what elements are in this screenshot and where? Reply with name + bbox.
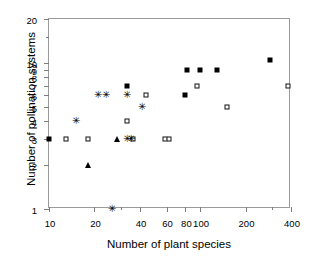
x-tick-label: 400	[284, 218, 300, 229]
x-tick: 400	[291, 207, 292, 212]
x-tick	[272, 207, 273, 210]
x-tick	[121, 207, 122, 210]
data-point-open-square	[125, 119, 130, 124]
x-tick-label: 10	[45, 218, 56, 229]
data-point-filled-square	[198, 67, 203, 72]
y-tick-label: 3	[32, 135, 37, 146]
x-tick: 100	[200, 207, 201, 212]
data-point-asterisk: ✳	[127, 136, 135, 142]
plot-area: 1234567891020 1020406080100200400 ✳✳✳✳✳✳…	[48, 18, 290, 208]
data-point-asterisk: ✳	[123, 92, 131, 98]
y-tick: 2	[44, 165, 49, 166]
y-tick: 10	[44, 63, 49, 64]
x-tick: 80	[185, 207, 186, 212]
y-tick-label: 2	[32, 161, 37, 172]
y-tick-label: 20	[26, 15, 37, 26]
y-tick-label: 5	[32, 102, 37, 113]
data-point-filled-square	[47, 137, 52, 142]
x-tick: 10	[49, 207, 50, 212]
y-tick: 9	[44, 70, 49, 71]
x-tick-label: 60	[162, 218, 173, 229]
data-point-filled-square	[185, 67, 190, 72]
y-tick	[46, 37, 49, 38]
data-point-asterisk: ✳	[72, 118, 80, 124]
x-tick: 200	[246, 207, 247, 212]
x-tick: 60	[167, 207, 168, 212]
data-point-asterisk: ✳	[94, 92, 102, 98]
x-tick-label: 100	[193, 218, 209, 229]
x-tick-label: 200	[239, 218, 255, 229]
data-point-open-square	[194, 83, 199, 88]
data-point-filled-square	[215, 67, 220, 72]
y-tick: 6	[44, 95, 49, 96]
data-point-filled-square	[267, 57, 272, 62]
x-tick-label: 40	[136, 218, 147, 229]
y-tick: 5	[44, 107, 49, 108]
x-tick: 40	[140, 207, 141, 212]
y-tick-label: 4	[32, 117, 37, 128]
x-axis-title: Number of plant species	[48, 238, 290, 250]
data-point-open-square	[144, 93, 149, 98]
data-point-filled-triangle	[85, 162, 91, 168]
data-point-asterisk: ✳	[108, 206, 116, 212]
data-point-filled-triangle	[114, 136, 120, 142]
x-tick-label: 20	[90, 218, 101, 229]
chart-screenshot: Number of pollination systems Number of …	[0, 0, 309, 264]
y-tick: 4	[44, 121, 49, 122]
data-point-open-square	[166, 137, 171, 142]
data-point-open-square	[85, 137, 90, 142]
data-point-filled-square	[125, 83, 130, 88]
y-tick: 7	[44, 86, 49, 87]
data-point-open-square	[64, 137, 69, 142]
y-tick-label: 10	[26, 58, 37, 69]
data-point-open-square	[285, 83, 290, 88]
y-tick: 20	[44, 19, 49, 20]
x-tick-label: 80	[181, 218, 192, 229]
x-tick: 20	[94, 207, 95, 212]
data-point-asterisk: ✳	[102, 92, 110, 98]
y-tick: 8	[44, 77, 49, 78]
data-point-filled-square	[183, 93, 188, 98]
y-tick-label: 6	[32, 91, 37, 102]
data-point-open-square	[224, 104, 229, 109]
y-tick-label: 1	[32, 205, 37, 216]
data-point-asterisk: ✳	[138, 104, 146, 110]
